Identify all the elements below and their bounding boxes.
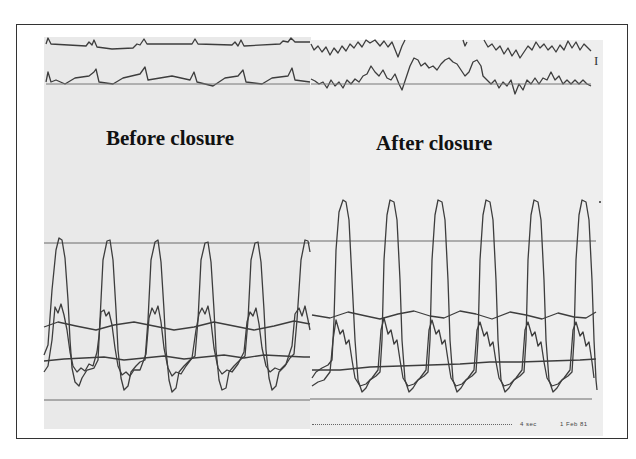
before-ecg-second — [46, 67, 310, 86]
after-ecg-second — [311, 58, 591, 94]
panel-label-before: Before closure — [106, 126, 234, 151]
after-ecg-top — [311, 40, 591, 58]
before-secondary-wave — [44, 304, 310, 376]
before-systolic-wave — [44, 238, 310, 392]
waveform-traces — [0, 0, 636, 459]
time-scale-dotted-line — [312, 424, 512, 425]
panel-label-after: After closure — [376, 131, 492, 156]
after-mean-lower — [312, 359, 596, 370]
marker-dot — [599, 201, 601, 203]
before-ecg-top — [46, 38, 310, 49]
after-mean-upper — [312, 311, 596, 319]
after-systolic-wave — [312, 200, 597, 392]
channel-marker: I — [594, 53, 598, 69]
paper-speed-label: 4 sec — [520, 421, 537, 427]
before-mean-upper — [44, 321, 310, 330]
recording-date-label: 1 Feb 81 — [560, 421, 588, 427]
before-mean-lower — [44, 355, 310, 361]
